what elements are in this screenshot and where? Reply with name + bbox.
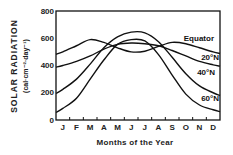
- series-label-60n: 60°N: [201, 94, 219, 103]
- x-tick-label: M: [87, 123, 94, 132]
- series-lines: [56, 32, 220, 113]
- x-tick-label: M: [114, 123, 121, 132]
- plot-frame: [56, 11, 220, 120]
- x-tick-label: A: [156, 123, 162, 132]
- x-tick-label: S: [169, 123, 175, 132]
- y-tick-400: 400: [41, 61, 55, 70]
- y-axis-units: (cal·cm⁻²·day⁻¹): [22, 39, 30, 93]
- y-tick-600: 600: [41, 34, 55, 43]
- x-tick-label: A: [101, 123, 107, 132]
- x-tick-labels: JFMAMJJASOND: [61, 123, 217, 132]
- series-label-equator: Equator: [184, 34, 214, 43]
- x-tick-label: F: [74, 123, 79, 132]
- series-label-40n: 40°N: [197, 68, 215, 77]
- y-tick-0: 0: [50, 116, 55, 125]
- x-tick-label: D: [210, 123, 216, 132]
- y-tick-800: 800: [41, 7, 55, 16]
- y-tick-200: 200: [41, 88, 55, 97]
- x-tick-label: J: [61, 123, 65, 132]
- x-tick-label: J: [143, 123, 147, 132]
- x-tick-label: J: [129, 123, 133, 132]
- x-axis-title: Months of the Year: [97, 138, 174, 147]
- solar-radiation-chart: SOLAR RADIATION (cal·cm⁻²·day⁻¹) 800 600…: [0, 0, 233, 155]
- x-tick-label: N: [197, 123, 203, 132]
- y-axis-title: SOLAR RADIATION: [9, 19, 19, 113]
- x-tick-label: O: [183, 123, 189, 132]
- series-label-20n: 20°N: [201, 53, 219, 62]
